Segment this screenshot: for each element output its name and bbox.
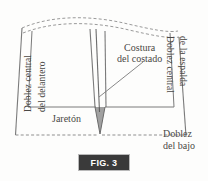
label-side-seam-line2: del costado <box>117 54 162 65</box>
label-right-fold-line1: Doblez central <box>164 36 174 93</box>
figure-caption-text: FIG. 3 <box>91 158 118 168</box>
center-seam-line-middle <box>96 29 100 112</box>
top-inner-dashed-curve <box>23 24 179 38</box>
figure-container: Doblez central del delantero Doblez cent… <box>0 0 208 181</box>
label-right-fold-line2: de la espalda <box>177 36 187 86</box>
label-left-fold-line1: Doblez central <box>24 55 34 112</box>
label-left-fold-line2: del delantero <box>38 61 48 112</box>
center-seam-line-left <box>90 29 95 107</box>
label-bottom-fold-line2: del bajo <box>163 140 195 152</box>
figure-caption-box: FIG. 3 <box>78 154 130 171</box>
left-fold-edge <box>16 28 23 135</box>
center-seam-line-right <box>105 31 106 107</box>
label-bottom-fold-line1: Doblez <box>163 128 192 139</box>
label-side-seam: Costura del costado <box>117 43 162 64</box>
label-bottom-fold: Doblez del bajo <box>163 128 195 151</box>
label-side-seam-line1: Costura <box>124 42 155 53</box>
label-hem-allowance: Jaretón <box>52 114 81 125</box>
hem-v-notch <box>95 107 105 134</box>
